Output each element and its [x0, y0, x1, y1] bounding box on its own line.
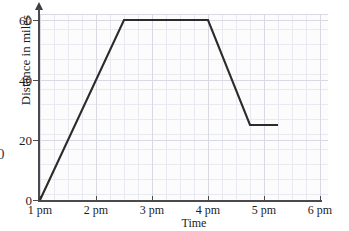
series-layer — [0, 0, 349, 231]
chart-figure: 0 Distance in miles 0204060 1 pm2 pm3 pm… — [0, 0, 349, 231]
distance-line — [40, 20, 278, 200]
